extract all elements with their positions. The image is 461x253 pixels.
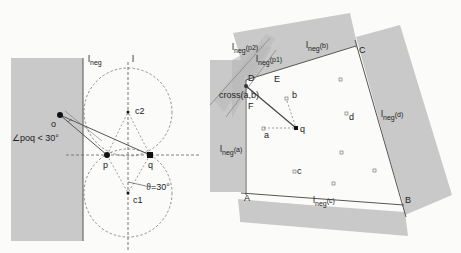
label-E: E [274,74,280,84]
label-c2: c2 [135,106,145,116]
label-c1: c1 [133,195,143,205]
label-o: o [51,119,56,129]
label-d: d [349,112,354,122]
diagram-canvas: lneg l o p q c2 c1 ∠poq < 30° ϑ=30° [0,0,461,253]
label-F: F [248,101,254,111]
point-p [104,152,110,158]
point-o [57,112,63,118]
point-q-right [294,126,298,130]
l-label: l [132,54,134,64]
point-cross-ab [244,84,248,88]
helper-q-c2 [128,112,150,155]
label-p: p [103,160,108,170]
point-c2 [127,111,130,114]
helper-p-c1 [107,155,128,193]
right-figure: D C A B E F a b c d q cross(a,b) lneg(p2… [210,13,452,236]
label-D: D [248,73,255,83]
theta-label: ϑ=30° [146,182,170,192]
label-c: c [297,166,302,176]
label-a: a [264,130,269,140]
theta-pointer [128,182,146,186]
point-c1 [127,192,130,195]
l-neg-shaded-region [11,58,83,241]
point-q [147,152,153,158]
helper-p-c2 [107,112,128,155]
angle-condition-label: ∠poq < 30° [12,133,59,143]
label-b: b [292,90,297,100]
label-C: C [359,45,366,55]
label-q-right: q [300,124,305,134]
left-figure: lneg l o p q c2 c1 ∠poq < 30° ϑ=30° [11,54,200,250]
label-B: B [405,195,411,205]
label-q: q [148,160,153,170]
label-A: A [244,193,250,203]
l-neg-label: lneg [88,54,102,67]
cross-ab-label: cross(a,b) [219,90,259,100]
